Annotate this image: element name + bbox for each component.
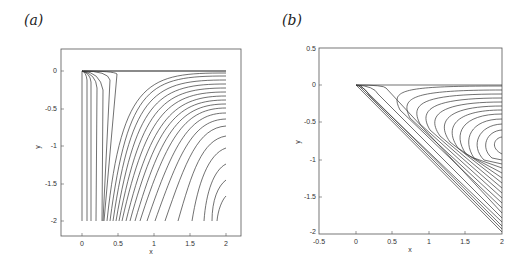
svg-text:y: y [294, 140, 302, 144]
svg-text:-2: -2 [51, 217, 57, 224]
svg-text:0.5: 0.5 [387, 238, 397, 245]
svg-text:0: 0 [312, 81, 316, 88]
svg-text:-1: -1 [310, 156, 316, 163]
svg-text:1: 1 [427, 238, 431, 245]
svg-text:-0.5: -0.5 [304, 118, 316, 125]
svg-text:-1: -1 [51, 142, 57, 149]
svg-text:-1.5: -1.5 [304, 193, 316, 200]
svg-text:0.5: 0.5 [113, 240, 123, 247]
svg-text:1.5: 1.5 [460, 238, 470, 245]
figure-canvas: 0 0.5 1 1.5 2 x 0 -0.5 -1 -1.5 -2 y [0, 0, 530, 263]
plot-a: 0 0.5 1 1.5 2 x 0 -0.5 -1 -1.5 -2 y [34, 49, 241, 255]
svg-text:1.5: 1.5 [185, 240, 195, 247]
svg-text:2: 2 [500, 238, 504, 245]
svg-text:-1.5: -1.5 [45, 180, 57, 187]
svg-text:-2: -2 [310, 228, 316, 235]
svg-text:x: x [408, 246, 412, 253]
svg-text:0: 0 [354, 238, 358, 245]
svg-text:0.5: 0.5 [306, 45, 316, 52]
plot-b: -0.5 0 0.5 1 1.5 2 x 0.5 0 -0.5 -1 -1.5 … [294, 45, 504, 253]
svg-text:-0.5: -0.5 [313, 238, 325, 245]
svg-text:2: 2 [224, 240, 228, 247]
svg-text:0: 0 [53, 67, 57, 74]
svg-text:-0.5: -0.5 [45, 105, 57, 112]
svg-text:x: x [149, 248, 153, 255]
svg-text:y: y [34, 145, 42, 149]
svg-text:1: 1 [152, 240, 156, 247]
svg-text:0: 0 [80, 240, 84, 247]
